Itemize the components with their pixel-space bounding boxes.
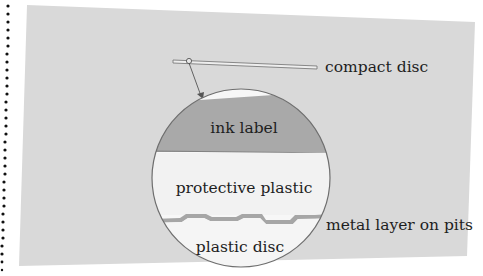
binding-dots <box>0 4 9 271</box>
label-ink-label: ink label <box>210 119 278 137</box>
diagram-canvas: compact disc ink label protective plasti… <box>0 0 483 276</box>
label-protective-plastic: protective plastic <box>176 179 313 197</box>
label-plastic-disc: plastic disc <box>196 238 284 256</box>
label-compact-disc: compact disc <box>325 58 428 76</box>
label-metal-layer: metal layer on pits <box>326 216 473 234</box>
